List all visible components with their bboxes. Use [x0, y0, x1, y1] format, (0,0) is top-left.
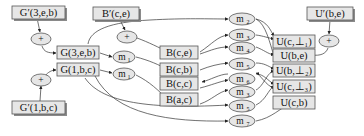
- node-u-b-bot2: U(b,⊥₂): [273, 64, 315, 77]
- m-label: m: [236, 74, 244, 84]
- plus-label: +: [38, 75, 43, 85]
- m-subscript: 3: [247, 35, 250, 41]
- m-label: m: [236, 14, 244, 24]
- node-label: G′(1,b,c): [20, 102, 58, 114]
- m-label: m: [236, 116, 244, 126]
- m-label: m: [118, 52, 126, 62]
- node-label: U(c,⊥₃): [276, 81, 312, 93]
- node-label: U′(b,e): [315, 8, 345, 20]
- m-label: m: [236, 101, 244, 111]
- m-label: m: [118, 69, 126, 79]
- node-label: B(c,e): [166, 47, 192, 59]
- node-gprime-3eb: G′(3,e,b): [12, 6, 67, 21]
- m-subscript: 7: [247, 121, 250, 127]
- operator-m3-b: m 3: [229, 86, 255, 98]
- m-label: m: [236, 59, 244, 69]
- operator-plus-g3: +: [31, 33, 51, 45]
- node-label: U(c,b): [280, 97, 308, 109]
- node-label: U(c,⊥₁): [276, 36, 312, 48]
- m-subscript: 5: [247, 64, 250, 70]
- m-label: m: [236, 43, 244, 53]
- operator-m3-a: m 3: [229, 29, 255, 41]
- node-label: B(a,c): [166, 94, 192, 106]
- node-label: G(3,e,b): [61, 47, 96, 59]
- node-label: G(1,b,c): [61, 64, 96, 76]
- node-label: B(c,c): [166, 78, 192, 90]
- node-b-ce: B(c,e): [160, 46, 198, 59]
- node-label: G′(3,e,b): [20, 7, 58, 19]
- node-label: U(b,⊥₂): [276, 65, 313, 77]
- plus-label: +: [326, 36, 331, 46]
- node-uprime-be: U′(b,e): [307, 7, 355, 22]
- operator-m6: m 6: [229, 73, 255, 85]
- operator-m2: m 2: [229, 13, 255, 25]
- node-bprime-ce: B′(c,e): [93, 7, 141, 22]
- m-label: m: [236, 87, 244, 97]
- operator-plus-u: +: [319, 35, 339, 47]
- m-subscript: 6: [247, 79, 250, 85]
- operator-m4: m 4: [229, 42, 255, 54]
- operator-m1-a: m 1: [113, 51, 135, 63]
- m-subscript: 3: [247, 92, 250, 98]
- m-label: m: [236, 30, 244, 40]
- node-b-cb: B(c,b): [160, 63, 198, 76]
- m-subscript: 4: [247, 48, 250, 54]
- m-subscript: 1: [128, 57, 131, 63]
- node-label: B′(c,e): [102, 8, 131, 20]
- operator-m1-b: m 1: [113, 68, 135, 80]
- dataflow-diagram: G′(3,e,b) G′(1,b,c) B′(c,e) U′(b,e) G(3,…: [0, 0, 364, 136]
- m-subscript: 2: [247, 19, 250, 25]
- operator-m5-b: m 5: [229, 100, 255, 112]
- m-subscript: 1: [128, 74, 131, 80]
- operator-plus-g1: +: [31, 74, 51, 86]
- plus-label: +: [38, 34, 43, 44]
- node-u-cb: U(c,b): [273, 96, 315, 109]
- node-b-cc: B(c,c): [160, 77, 198, 90]
- node-u-c-bot3: U(c,⊥₃): [273, 80, 315, 93]
- node-label: B(c,b): [166, 64, 193, 76]
- node-b-ac: B(a,c): [160, 93, 198, 106]
- node-g-1bc: G(1,b,c): [57, 63, 99, 76]
- node-gprime-1bc: G′(1,b,c): [12, 101, 67, 116]
- node-g-3eb: G(3,e,b): [57, 46, 99, 59]
- operator-m7: m 7: [229, 115, 255, 127]
- plus-label: +: [124, 32, 129, 42]
- operator-m5-a: m 5: [229, 58, 255, 70]
- node-u-c-bot1: U(c,⊥₁): [273, 35, 315, 48]
- node-label: U(b,e): [280, 50, 308, 62]
- operator-plus-b: +: [117, 31, 137, 43]
- node-u-be: U(b,e): [273, 49, 315, 62]
- m-subscript: 5: [247, 106, 250, 112]
